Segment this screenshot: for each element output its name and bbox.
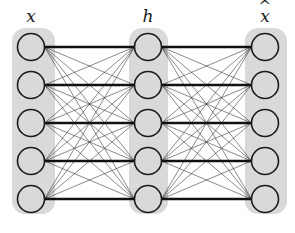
- node-hidden-3[interactable]: [135, 110, 162, 137]
- node-hidden-2[interactable]: [135, 72, 162, 99]
- network-graph-canvas: [0, 0, 295, 233]
- node-input-1[interactable]: [18, 34, 45, 61]
- node-output-2[interactable]: [252, 72, 279, 99]
- layer-label-output: x^: [260, 8, 270, 25]
- node-input-4[interactable]: [18, 148, 45, 175]
- node-output-5[interactable]: [252, 186, 279, 213]
- layer-label-text: h: [143, 6, 154, 26]
- node-hidden-5[interactable]: [135, 186, 162, 213]
- node-hidden-1[interactable]: [135, 34, 162, 61]
- hat-accent-wrapper: x^: [260, 8, 270, 25]
- layer-label-input: x: [26, 8, 36, 25]
- layer-label-text: x: [26, 6, 36, 26]
- neural-network-diagram: x h x^: [0, 0, 295, 233]
- node-output-4[interactable]: [252, 148, 279, 175]
- node-input-2[interactable]: [18, 72, 45, 99]
- node-hidden-4[interactable]: [135, 148, 162, 175]
- node-input-3[interactable]: [18, 110, 45, 137]
- circumflex-accent-icon: ^: [258, 0, 271, 14]
- node-output-1[interactable]: [252, 34, 279, 61]
- node-input-5[interactable]: [18, 186, 45, 213]
- layer-label-hidden: h: [143, 8, 154, 25]
- node-output-3[interactable]: [252, 110, 279, 137]
